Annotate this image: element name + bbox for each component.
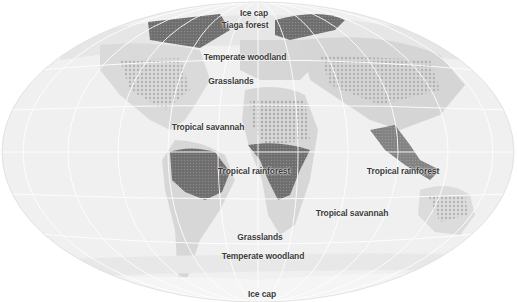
label-ice-cap-south: Ice cap xyxy=(248,289,276,299)
label-grasslands-south: Grasslands xyxy=(237,232,282,242)
label-temperate-woodland-north: Temperate woodland xyxy=(204,52,287,62)
label-temperate-woodland-south: Temperate woodland xyxy=(222,251,305,261)
label-ice-cap-north: Ice cap xyxy=(240,8,268,18)
label-grasslands-north: Grasslands xyxy=(208,76,253,86)
label-tropical-rainforest-asia: Tropical rainforest xyxy=(367,166,439,176)
label-tropical-savannah-south: Tropical savannah xyxy=(316,208,388,218)
label-taiga-forest: Tiaga forest xyxy=(222,20,269,30)
label-tropical-rainforest-africa: Tropical rainforest xyxy=(218,166,290,176)
label-tropical-savannah-north: Tropical savannah xyxy=(172,122,244,132)
